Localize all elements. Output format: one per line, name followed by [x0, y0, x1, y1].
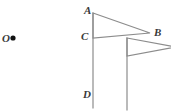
- triangle-ACB: [93, 13, 150, 38]
- label-point-D: D: [83, 89, 91, 100]
- point-O-dot: [10, 35, 15, 40]
- label-point-C: C: [81, 31, 88, 42]
- label-point-B: B: [154, 27, 161, 38]
- triangle-image: [127, 38, 171, 56]
- label-point-O: O: [2, 33, 10, 44]
- label-point-A: A: [84, 5, 91, 16]
- geometry-figure: O A B C D: [0, 0, 171, 112]
